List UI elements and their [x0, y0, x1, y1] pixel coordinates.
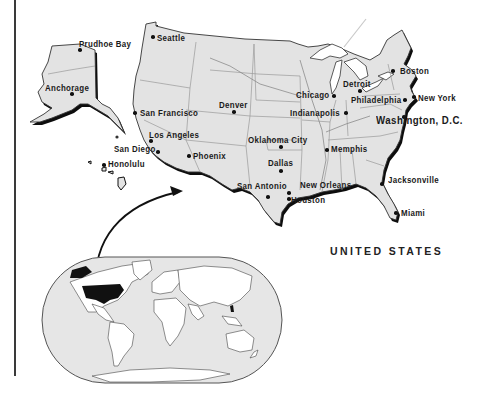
city-dot-chicago	[332, 94, 336, 98]
country-title: UNITED STATES	[330, 245, 443, 257]
city-label-los-angeles: Los Angeles	[149, 131, 199, 140]
city-label-seattle: Seattle	[157, 34, 185, 43]
leader-line	[344, 19, 366, 47]
city-dot-philadelphia	[403, 98, 407, 102]
city-label-jacksonville: Jacksonville	[388, 176, 439, 185]
city-dot-seattle	[151, 35, 155, 39]
city-dot-phoenix	[187, 154, 191, 158]
city-label-indianapolis: Indianapolis	[290, 109, 340, 118]
city-label-san-diego: San Diego	[114, 145, 156, 154]
city-label-prudhoe-bay: Prudhoe Bay	[79, 40, 131, 49]
map-figure: Prudhoe BaySeattleAnchorageSan Francisco…	[0, 0, 485, 396]
city-dot-indianapolis	[344, 111, 348, 115]
city-label-memphis: Memphis	[331, 145, 368, 154]
city-dot-honolulu	[102, 163, 106, 167]
city-label-oklahoma-city: Oklahoma City	[248, 136, 308, 145]
city-label-denver: Denver	[219, 101, 248, 110]
city-label-san-antonio: San Antonio	[237, 182, 287, 191]
city-label-boston: Boston	[400, 67, 429, 76]
city-label-miami: Miami	[401, 209, 425, 218]
city-dot-san-antonio	[266, 195, 270, 199]
city-dot-dallas	[279, 169, 283, 173]
city-dot-detroit	[358, 89, 362, 93]
city-dot-memphis	[325, 148, 329, 152]
map-graphics	[0, 0, 485, 396]
world-inset	[42, 257, 282, 383]
city-label-washington-d-c: Washington, D.C.	[376, 115, 463, 126]
city-dot-miami	[394, 211, 398, 215]
city-label-philadelphia: Philadelphia	[351, 96, 401, 105]
city-label-chicago: Chicago	[296, 91, 329, 100]
city-label-new-york: New York	[418, 94, 456, 103]
city-label-san-francisco: San Francisco	[140, 109, 198, 118]
city-dot-denver	[232, 110, 236, 114]
city-label-houston: Houston	[291, 196, 325, 205]
city-dot-boston	[391, 69, 395, 73]
city-label-honolulu: Honolulu	[108, 160, 145, 169]
city-dot-oklahoma-city	[279, 145, 283, 149]
city-label-new-orleans: New Orleans	[300, 181, 351, 190]
city-label-dallas: Dallas	[268, 159, 293, 168]
city-label-detroit: Detroit	[343, 80, 371, 89]
city-dot-san-diego	[156, 150, 160, 154]
city-dot-san-francisco	[133, 111, 137, 115]
city-dot-new-york	[412, 95, 416, 99]
city-dot-jacksonville	[380, 182, 384, 186]
city-label-anchorage: Anchorage	[45, 84, 89, 93]
city-label-phoenix: Phoenix	[193, 152, 226, 161]
